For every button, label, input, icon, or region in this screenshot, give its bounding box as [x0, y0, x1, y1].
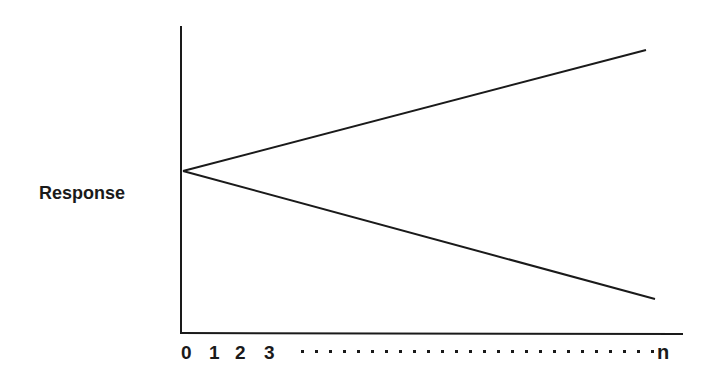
- lower-response-line: [183, 171, 655, 299]
- x-end-label: n: [657, 341, 669, 363]
- x-axis: [180, 333, 683, 334]
- y-axis-label: Response: [39, 183, 125, 203]
- x-tick-1: 1: [209, 342, 220, 363]
- upper-response-line: [183, 50, 646, 171]
- x-tick-0: 0: [181, 342, 192, 363]
- x-axis-ellipsis: [301, 350, 654, 353]
- x-tick-2: 2: [235, 342, 246, 363]
- response-diagram: Response 0 1 2 3 n: [0, 0, 718, 380]
- x-tick-3: 3: [264, 342, 275, 363]
